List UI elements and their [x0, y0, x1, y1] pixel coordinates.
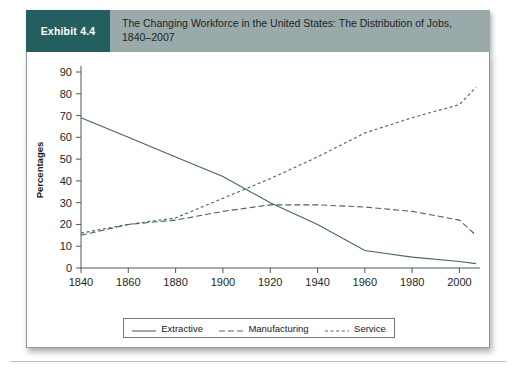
y-tick-label: 50 — [60, 153, 72, 165]
plot-area: 0102030405060708090184018601880190019201… — [27, 52, 489, 347]
y-tick-label: 30 — [60, 197, 72, 209]
source-note — [12, 364, 502, 373]
series-line-manufacturing — [81, 205, 476, 235]
x-tick-label: 1860 — [116, 276, 140, 288]
y-tick-label: 0 — [66, 262, 72, 274]
exhibit-number-badge: Exhibit 4.4 — [26, 10, 110, 52]
legend-item-service: Service — [325, 323, 386, 334]
chart-legend: Extractive Manufacturing Service — [123, 318, 395, 338]
x-tick-label: 1880 — [163, 276, 187, 288]
x-tick-label: 1940 — [305, 276, 329, 288]
y-axis-title: Percentages — [34, 142, 45, 199]
y-tick-label: 90 — [60, 66, 72, 78]
x-tick-label: 1840 — [69, 276, 93, 288]
legend-label-manufacturing: Manufacturing — [248, 323, 308, 334]
exhibit-header: Exhibit 4.4 The Changing Workforce in th… — [26, 10, 490, 52]
y-tick-label: 80 — [60, 88, 72, 100]
legend-item-manufacturing: Manufacturing — [219, 323, 308, 334]
legend-swatch-extractive — [132, 328, 156, 329]
exhibit-title: The Changing Workforce in the United Sta… — [110, 10, 490, 52]
y-tick-label: 10 — [60, 240, 72, 252]
y-tick-label: 60 — [60, 131, 72, 143]
line-chart: 0102030405060708090184018601880190019201… — [27, 52, 489, 346]
source-divider — [10, 361, 506, 362]
x-tick-label: 1900 — [211, 276, 235, 288]
legend-swatch-manufacturing — [219, 328, 243, 329]
legend-item-extractive: Extractive — [132, 323, 203, 334]
x-tick-label: 1980 — [400, 276, 424, 288]
legend-label-service: Service — [354, 323, 386, 334]
y-tick-label: 40 — [60, 175, 72, 187]
series-line-service — [81, 87, 476, 233]
x-tick-label: 1960 — [353, 276, 377, 288]
y-tick-label: 20 — [60, 218, 72, 230]
x-tick-label: 2000 — [447, 276, 471, 288]
series-line-extractive — [81, 118, 476, 264]
exhibit-figure: Exhibit 4.4 The Changing Workforce in th… — [26, 10, 490, 350]
legend-swatch-service — [325, 328, 349, 329]
chart-panel: 0102030405060708090184018601880190019201… — [26, 52, 490, 348]
x-tick-label: 1920 — [258, 276, 282, 288]
y-tick-label: 70 — [60, 110, 72, 122]
legend-label-extractive: Extractive — [161, 323, 203, 334]
